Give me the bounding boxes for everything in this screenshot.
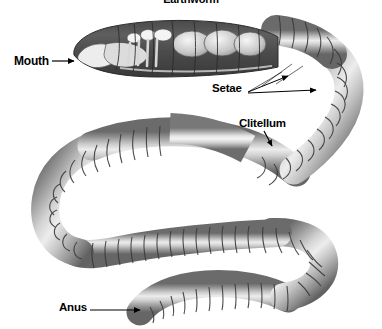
- label-clitellum: Clitellum: [239, 117, 286, 129]
- label-setae: Setae: [212, 82, 242, 94]
- earthworm-anatomy-figure: Earthworm Mouth Setae Clitellum Anus: [0, 0, 382, 329]
- setae-leader-2: [248, 90, 316, 93]
- label-anus: Anus: [59, 301, 87, 313]
- digestive-lobes: [173, 30, 266, 57]
- anterior-run: [276, 30, 332, 54]
- earthworm-diagram: [0, 0, 382, 329]
- setae-leader-1: [248, 76, 288, 92]
- figure-title: Earthworm: [0, 0, 382, 5]
- anterior-cutaway: [74, 20, 278, 77]
- setae-tick-3: [276, 66, 303, 84]
- label-mouth: Mouth: [14, 54, 49, 68]
